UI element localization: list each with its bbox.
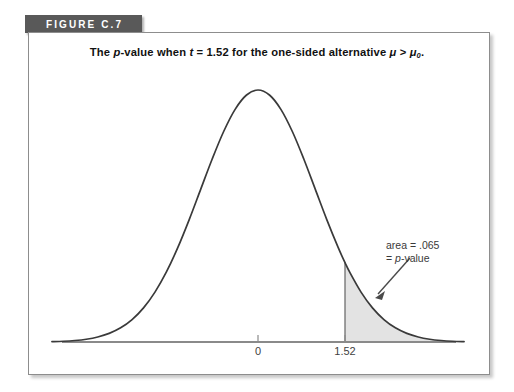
density-curve	[52, 90, 464, 342]
annotation-equals: =	[386, 252, 395, 264]
figure-container: FIGURE C.7 The p-value when t = 1.52 for…	[0, 0, 514, 392]
shaded-tail-region	[345, 263, 464, 342]
annotation-area-line: area = .065	[386, 239, 439, 252]
annotation-pvalue-line: = p-value	[386, 252, 439, 265]
annotation-value-word: -value	[401, 252, 430, 264]
axis-tick-label-152: 1.52	[327, 345, 363, 357]
pvalue-annotation: area = .065 = p-value	[386, 239, 439, 264]
density-curve-chart	[0, 0, 514, 392]
axis-tick-label-0: 0	[248, 345, 268, 357]
